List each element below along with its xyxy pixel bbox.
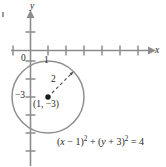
radius-value-label: 2 <box>51 75 56 85</box>
x-tick-label-1: 1 <box>44 56 49 66</box>
circle-equation-label: (x − 1)2 + (y + 3)2 = 4 <box>57 137 144 147</box>
y-tick-label-neg3: −3 <box>15 91 25 101</box>
equation-plus: + <box>87 136 98 147</box>
equation-x-minus: − 1) <box>65 136 84 147</box>
center-coordinate-label: (1, −3) <box>33 100 59 110</box>
origin-label: 0 <box>21 54 26 64</box>
equation-rhs: = 4 <box>128 136 144 147</box>
equation-y-plus: + 3) <box>106 136 125 147</box>
circle-graph-figure: y x 0 1 −3 2 (1, −3) (x − 1)2 + (y + 3)2… <box>0 0 166 167</box>
x-axis-label: x <box>155 46 159 56</box>
y-axis-label: y <box>30 2 34 12</box>
